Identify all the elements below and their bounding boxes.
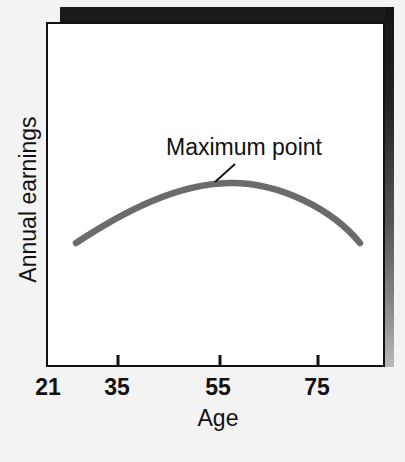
x-tick-label-21: 21 (18, 374, 78, 401)
x-tick-label-35: 35 (87, 374, 147, 401)
plot-area: Maximum point (46, 22, 385, 367)
x-tick-label-75: 75 (287, 374, 347, 401)
y-axis-title: Annual earnings (15, 100, 42, 300)
chart-figure: Maximum point 21 35 55 75 Age Annual ear… (0, 0, 405, 462)
plot-canvas (48, 24, 387, 369)
annotation-leader-line (215, 164, 235, 182)
figure-shadow-top (60, 7, 393, 23)
x-axis-title: Age (158, 405, 278, 432)
x-axis-tick-marks (118, 355, 318, 367)
annotation-label: Maximum point (166, 134, 322, 161)
x-tick-label-55: 55 (188, 374, 248, 401)
earnings-curve (76, 183, 360, 243)
